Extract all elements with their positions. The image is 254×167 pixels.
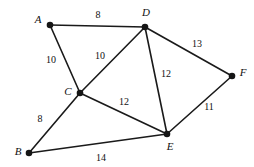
- edge-weight-label-a-c: 10: [46, 54, 56, 65]
- graph-vertex-b: [26, 150, 33, 157]
- weighted-graph-figure: 8101013121211814 ABCDEF: [0, 0, 254, 167]
- vertex-label-a: A: [34, 13, 42, 25]
- vertex-label-d: D: [141, 6, 150, 18]
- graph-vertex-a: [47, 22, 54, 29]
- vertex-label-c: C: [64, 85, 72, 97]
- vertex-label-e: E: [166, 140, 174, 152]
- graph-edge-b-e: [29, 134, 167, 153]
- vertex-label-f: F: [239, 66, 247, 78]
- graph-vertex-d: [142, 24, 149, 31]
- edge-weight-label-c-d: 10: [95, 50, 105, 61]
- edge-weight-label-b-c: 8: [38, 113, 43, 124]
- graph-vertex-f: [229, 73, 236, 80]
- edge-weight-label-d-f: 13: [192, 38, 202, 49]
- vertex-label-b: B: [15, 145, 22, 157]
- graph-edge-d-e: [145, 27, 167, 134]
- edge-weight-label-b-e: 14: [96, 152, 106, 163]
- edge-weight-label-d-e: 12: [161, 68, 171, 79]
- graph-edge-a-d: [50, 25, 145, 27]
- graph-edge-d-f: [145, 27, 232, 76]
- graph-edge-e-f: [167, 76, 232, 134]
- edge-weight-label-c-e: 12: [119, 96, 129, 107]
- graph-canvas: 8101013121211814 ABCDEF: [0, 0, 254, 167]
- graph-vertex-c: [77, 90, 84, 97]
- graph-vertex-e: [164, 131, 171, 138]
- edge-weight-label-e-f: 11: [204, 101, 214, 112]
- edge-weight-label-a-d: 8: [96, 9, 101, 20]
- graph-edge-c-d: [80, 27, 145, 93]
- vertex-labels-group: ABCDEF: [15, 6, 247, 157]
